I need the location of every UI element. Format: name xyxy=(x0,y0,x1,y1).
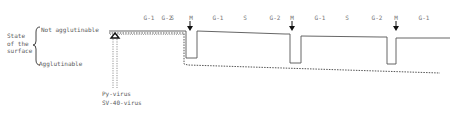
m-arrow-icon-1 xyxy=(187,21,193,31)
m-arrow-icon-3 xyxy=(393,21,399,31)
normal-cells-line xyxy=(109,31,450,64)
transformed-cells-line xyxy=(109,33,440,73)
cell-cycle-diagram xyxy=(0,0,454,115)
curly-brace-icon xyxy=(33,27,40,65)
m-arrow-icon-2 xyxy=(289,21,295,31)
infection-triangle-icon xyxy=(111,33,119,88)
